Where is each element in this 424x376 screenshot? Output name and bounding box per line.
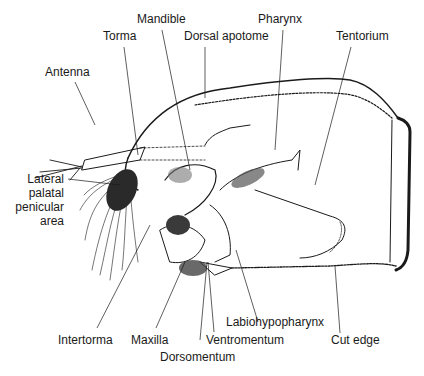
head-capsule-dorsal xyxy=(128,78,398,158)
label-antenna: Antenna xyxy=(45,65,90,79)
label-lateral-palatal-line1: Lateral xyxy=(20,172,64,186)
label-lateral-palatal-line2: palatal xyxy=(10,186,64,200)
antenna-shaft xyxy=(82,147,145,170)
label-maxilla: Maxilla xyxy=(131,333,168,347)
label-tentorium: Tentorium xyxy=(336,29,389,43)
labiohypopharynx xyxy=(210,205,230,262)
label-dorsomentum: Dorsomentum xyxy=(160,350,235,364)
label-torma: Torma xyxy=(103,29,136,43)
head-capsule-ventral xyxy=(232,264,396,268)
label-intertorma: Intertorma xyxy=(58,333,113,347)
label-labiohypopharynx: Labiohypopharynx xyxy=(226,315,324,329)
cut-edge-rim xyxy=(396,118,410,270)
tentorium xyxy=(255,190,345,258)
diagram-figure: Mandible Pharynx Torma Dorsal apotome Te… xyxy=(0,0,424,376)
label-mandible: Mandible xyxy=(137,12,186,26)
label-lateral-palatal-line4: area xyxy=(10,214,64,228)
label-lateral-palatal-line3: penicular xyxy=(4,200,64,214)
label-ventromentum: Ventromentum xyxy=(206,333,284,347)
label-dorsal-apotome: Dorsal apotome xyxy=(184,29,269,43)
label-cut-edge: Cut edge xyxy=(331,333,380,347)
label-pharynx: Pharynx xyxy=(258,12,302,26)
head-capsule-inner xyxy=(195,93,392,118)
